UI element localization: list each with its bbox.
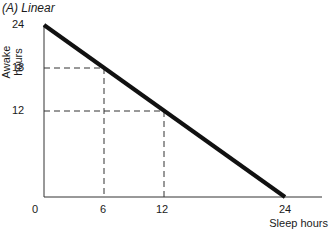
plot-area [0,0,333,230]
guide-lines [44,68,164,197]
